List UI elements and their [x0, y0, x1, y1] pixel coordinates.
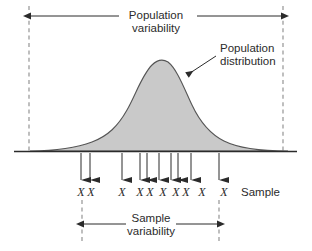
sample-x-label: X [219, 185, 228, 199]
sample-observation-markers [81, 153, 219, 180]
figure-canvas: Population variability Population distri… [0, 0, 312, 251]
population-distribution-label-line1: Population [220, 42, 274, 54]
population-distribution-leader-arrow [187, 56, 216, 75]
sample-x-label: X [158, 185, 167, 199]
sample-x-label: X [181, 185, 190, 199]
population-distribution-curve [30, 60, 288, 151]
sample-x-label: X [171, 185, 180, 199]
sample-x-label: X [145, 185, 154, 199]
population-sample-variability-figure: Population variability Population distri… [0, 0, 312, 251]
sample-observation-labels: X X X X X X X X X X [76, 185, 228, 199]
sample-x-label: X [197, 185, 206, 199]
sample-x-label: X [86, 185, 95, 199]
population-variability-label-line2: variability [132, 22, 180, 34]
sample-variability-label-line2: variability [127, 225, 175, 237]
sample-row-label: Sample [241, 186, 280, 198]
population-variability-label-line1: Population [129, 9, 183, 21]
sample-x-label: X [135, 185, 144, 199]
population-distribution-label-line2: distribution [220, 55, 276, 67]
sample-variability-label-line1: Sample [132, 212, 171, 224]
sample-x-label: X [117, 185, 126, 199]
sample-x-label: X [76, 185, 85, 199]
